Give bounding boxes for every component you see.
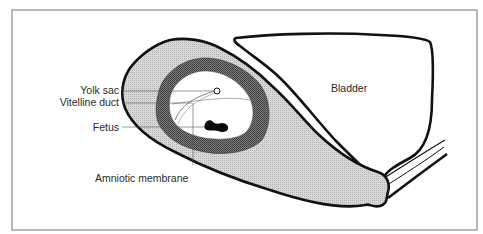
yolk-sac	[214, 88, 220, 94]
label-vitelline-duct: Vitelline duct	[60, 96, 119, 108]
label-fetus: Fetus	[93, 121, 119, 133]
label-yolk-sac: Yolk sac	[80, 84, 119, 96]
label-bladder: Bladder	[331, 82, 368, 94]
label-amniotic-membrane: Amniotic membrane	[95, 172, 189, 184]
diagram-canvas: Yolk sac Vitelline duct Fetus Amniotic m…	[0, 0, 483, 234]
